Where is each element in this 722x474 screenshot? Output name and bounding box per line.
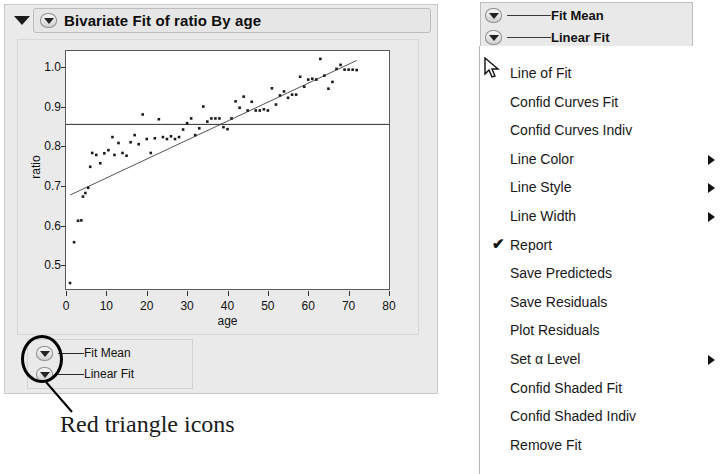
menu-item-label: Confid Curves Indiv (510, 122, 632, 138)
annotation-caption: Red triangle icons (60, 411, 235, 438)
legend-label-linear-fit: Linear Fit (84, 367, 134, 381)
x-axis-tick-mark (147, 291, 148, 296)
menu-item-line-color[interactable]: Line Color (480, 146, 722, 174)
fit-context-menu[interactable]: Line of FitConfid Curves FitConfid Curve… (479, 46, 722, 474)
menu-item-line-width[interactable]: Line Width (480, 203, 722, 231)
chevron-right-icon (708, 355, 715, 365)
menu-item-set-level[interactable]: Set α Level (480, 346, 722, 374)
x-axis-tick-mark (106, 291, 107, 296)
x-axis-title: age (65, 314, 390, 328)
x-axis-tick-mark (349, 291, 350, 296)
red-triangle-icon-outer[interactable] (14, 16, 30, 25)
menu-item-plot-residuals[interactable]: Plot Residuals (480, 317, 722, 345)
menu-item-label: Save Residuals (510, 294, 607, 310)
plot-frame[interactable] (65, 50, 390, 290)
menu-item-label: Confid Curves Fit (510, 94, 618, 110)
x-axis-tick-label: 50 (261, 299, 274, 313)
menu-item-label: Confid Shaded Fit (510, 380, 622, 396)
legend-connector-line (507, 15, 551, 16)
menu-item-label: Line Style (510, 179, 571, 195)
x-axis-tick-mark (308, 291, 309, 296)
x-axis-tick-mark (187, 291, 188, 296)
menu-item-label: Set α Level (510, 351, 580, 367)
red-triangle-icon-title[interactable] (40, 13, 57, 28)
menu-item-report[interactable]: ✔Report (480, 232, 722, 260)
menu-item-label: Confid Shaded Indiv (510, 408, 636, 424)
chevron-right-icon (708, 155, 715, 165)
x-axis-tick-label: 20 (140, 299, 153, 313)
legend-label-fit-mean: Fit Mean (84, 346, 131, 360)
check-icon: ✔ (492, 235, 505, 253)
red-triangle-icon-linear-fit-right[interactable] (485, 30, 502, 45)
menu-item-label: Line Width (510, 208, 576, 224)
x-axis-tick-label: 70 (342, 299, 355, 313)
menu-item-line-of-fit[interactable]: Line of Fit (480, 60, 722, 88)
scatterplot-container: 0.50.60.70.80.91.0 01020304050607080 age… (17, 39, 419, 335)
menu-item-confid-shaded-fit[interactable]: Confid Shaded Fit (480, 375, 722, 403)
x-axis-tick-labels: 01020304050607080 (65, 296, 390, 312)
menu-item-label: Remove Fit (510, 437, 582, 453)
report-title-bar: Bivariate Fit of ratio By age (5, 5, 437, 35)
menu-item-confid-curves-fit[interactable]: Confid Curves Fit (480, 89, 722, 117)
chevron-right-icon (708, 183, 715, 193)
scatter-plot-svg (66, 51, 389, 289)
y-axis-tick-label: 0.8 (44, 139, 61, 153)
menu-item-label: Report (510, 237, 552, 253)
report-title-box: Bivariate Fit of ratio By age (33, 8, 431, 33)
menu-item-save-predicteds[interactable]: Save Predicteds (480, 260, 722, 288)
legend-connector-line (58, 374, 84, 375)
y-axis-tick-label: 0.6 (44, 219, 61, 233)
data-points (69, 58, 358, 285)
menu-item-label: Line of Fit (510, 65, 571, 81)
annotation-ellipse (21, 335, 63, 383)
y-axis-tick-label: 0.9 (44, 100, 61, 114)
mouse-pointer-icon (484, 57, 504, 81)
x-axis-tick-label: 60 (302, 299, 315, 313)
right-legend-label-fit-mean: Fit Mean (551, 8, 604, 23)
menu-item-line-style[interactable]: Line Style (480, 174, 722, 202)
x-axis-tick-label: 10 (100, 299, 113, 313)
right-legend-label-linear-fit: Linear Fit (551, 30, 610, 45)
y-axis-tick-label: 1.0 (44, 60, 61, 74)
menu-item-save-residuals[interactable]: Save Residuals (480, 289, 722, 317)
x-axis-tick-mark (389, 291, 390, 296)
menu-item-label: Save Predicteds (510, 265, 612, 281)
menu-item-label: Line Color (510, 151, 574, 167)
x-axis-tick-mark (228, 291, 229, 296)
menu-item-remove-fit[interactable]: Remove Fit (480, 432, 722, 460)
x-axis-tick-label: 30 (180, 299, 193, 313)
chevron-right-icon (708, 212, 715, 222)
legend-connector-line (507, 37, 551, 38)
y-axis-tick-label: 0.5 (44, 258, 61, 272)
x-axis-tick-mark (66, 291, 67, 296)
red-triangle-icon-fit-mean-right[interactable] (485, 8, 502, 23)
page-title: Bivariate Fit of ratio By age (64, 12, 261, 29)
menu-item-label: Plot Residuals (510, 322, 600, 338)
x-axis-tick-label: 0 (63, 299, 70, 313)
x-axis-tick-label: 80 (382, 299, 395, 313)
linear-fit-line (70, 60, 357, 195)
menu-item-confid-shaded-indiv[interactable]: Confid Shaded Indiv (480, 403, 722, 431)
y-axis-tick-label: 0.7 (44, 179, 61, 193)
y-axis-title: ratio (29, 137, 43, 197)
right-fit-legend: Fit Mean Linear Fit (480, 2, 693, 51)
menu-item-confid-curves-indiv[interactable]: Confid Curves Indiv (480, 117, 722, 145)
x-axis-tick-mark (268, 291, 269, 296)
x-axis-tick-label: 40 (221, 299, 234, 313)
bivariate-report-panel: Bivariate Fit of ratio By age 0.50.60.70… (4, 4, 438, 394)
